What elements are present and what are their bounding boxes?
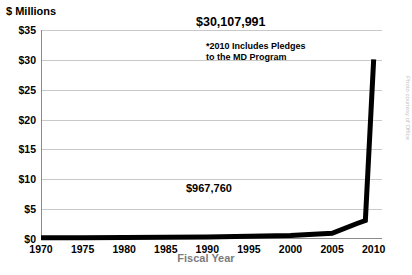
- y-tick-15: $15: [18, 143, 36, 155]
- y-tick-30: $30: [18, 54, 36, 66]
- annotation-peak-value: $30,107,991: [196, 15, 266, 29]
- y-tick-5: $5: [24, 203, 36, 215]
- x-axis-title: Fiscal Year: [0, 252, 412, 264]
- side-credit-text: Photo courtesy of Office: [405, 76, 411, 140]
- y-axis-title: $ Millions: [6, 5, 56, 17]
- annotation-footnote: *2010 Includes Pledges to the MD Program: [206, 41, 306, 63]
- annotation-low-value: $967,760: [186, 182, 232, 194]
- y-tick-10: $10: [18, 173, 36, 185]
- y-tick-20: $20: [18, 114, 36, 126]
- y-tick-25: $25: [18, 84, 36, 96]
- chart-container: $ Millions $0 $5 $10 $15 $20 $25 $30 $35…: [0, 0, 412, 275]
- y-tick-35: $35: [18, 24, 36, 36]
